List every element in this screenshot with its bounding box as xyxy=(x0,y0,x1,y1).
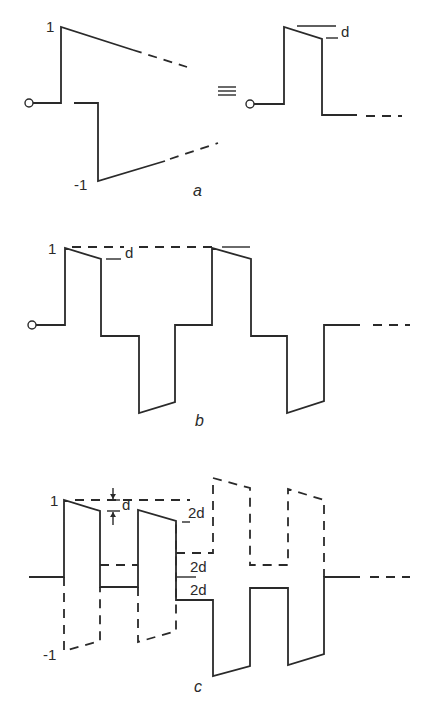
terminal-circle-icon xyxy=(246,100,254,108)
label-low: -1 xyxy=(74,176,87,193)
label-d: d xyxy=(125,244,133,261)
label-d: d xyxy=(122,496,130,513)
label-high: 1 xyxy=(48,240,56,257)
positive-step-wave xyxy=(33,27,133,103)
panel-b: 1 d b xyxy=(28,240,410,429)
dashed-negative-pulse-1 xyxy=(64,577,100,651)
waveform-figure: 1 -1 a d 1 d b xyxy=(0,0,433,720)
d-arrow-icon xyxy=(107,488,120,525)
panel-a: 1 -1 a d xyxy=(25,18,402,199)
label-2d-3: 2d xyxy=(190,581,207,598)
label-2d-1: 2d xyxy=(188,504,205,521)
label-d: d xyxy=(341,23,349,40)
label-2d-2: 2d xyxy=(190,558,207,575)
pulse-wave xyxy=(254,27,357,115)
negative-step-continuation xyxy=(170,143,218,159)
caption-c: c xyxy=(194,678,202,695)
panel-c: d 2d 2d 2d 1 -1 c xyxy=(29,478,410,695)
caption-b: b xyxy=(195,412,204,429)
positive-step-continuation xyxy=(133,50,187,67)
caption-a: a xyxy=(193,182,202,199)
alternating-pulse-wave xyxy=(36,248,360,413)
label-high: 1 xyxy=(50,492,58,509)
label-high: 1 xyxy=(46,18,54,35)
equivalence-icon xyxy=(218,87,236,95)
label-low: -1 xyxy=(43,646,56,663)
terminal-circle-icon xyxy=(28,321,36,329)
terminal-circle-icon xyxy=(25,99,33,107)
dashed-negative-pulse-2 xyxy=(138,521,176,642)
negative-step-wave xyxy=(74,103,165,181)
